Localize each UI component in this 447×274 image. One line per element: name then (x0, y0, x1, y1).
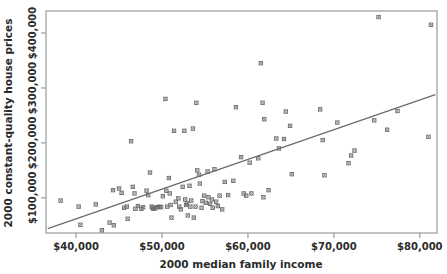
data-point-marker (427, 135, 430, 138)
data-point-marker (183, 129, 186, 132)
data-point-marker (321, 138, 324, 141)
data-point-marker (108, 221, 111, 224)
data-point-marker (198, 182, 201, 185)
data-point-marker (167, 176, 170, 179)
x-tick-label: $50,000 (139, 241, 185, 252)
x-axis-tick-labels: $40,000$50,000$60,000$70,000$80,000 (53, 241, 442, 252)
data-point-marker (94, 203, 97, 206)
data-point-marker (282, 137, 285, 140)
data-point-marker (323, 174, 326, 177)
data-point-marker (220, 208, 223, 211)
data-point-marker (290, 173, 293, 176)
data-point-marker (226, 193, 229, 196)
data-point-marker (429, 23, 432, 26)
data-point-marker (120, 191, 123, 194)
data-point-marker (79, 223, 82, 226)
data-point-marker (234, 105, 237, 108)
data-point-marker (186, 214, 189, 217)
data-point-marker (353, 149, 356, 152)
data-point-marker (117, 187, 120, 190)
data-point-marker (207, 196, 210, 199)
x-axis-ticks (76, 233, 420, 238)
data-point-marker (223, 180, 226, 183)
data-point-marker (211, 206, 214, 209)
data-point-marker (377, 15, 380, 18)
data-point-marker (172, 129, 175, 132)
data-point-marker (59, 199, 62, 202)
y-tick-label: $100,000 (27, 172, 38, 225)
data-point-marker (259, 62, 262, 65)
data-point-marker (126, 217, 129, 220)
data-point-marker (267, 188, 270, 191)
data-point-marker (200, 206, 203, 209)
data-point-marker (349, 154, 352, 157)
data-point-marker (111, 188, 114, 191)
data-point-marker (165, 205, 168, 208)
data-point-marker (202, 194, 205, 197)
data-point-marker (245, 194, 248, 197)
x-tick-label: $70,000 (311, 241, 357, 252)
data-point-marker (347, 162, 350, 165)
chart-canvas: $40,000$50,000$60,000$70,000$80,000 $100… (0, 0, 447, 274)
data-point-marker (191, 127, 194, 130)
data-point-marker (168, 192, 171, 195)
data-point-marker (275, 137, 278, 140)
data-point-marker (210, 198, 213, 201)
plot-frame (46, 11, 437, 233)
data-point-marker (184, 198, 187, 201)
data-point-marker (208, 202, 211, 205)
data-point-marker (190, 199, 193, 202)
data-point-marker (261, 101, 264, 104)
y-axis-tick-labels: $100,000$200,000$300,000$400,000 (27, 7, 38, 224)
data-point-marker (112, 224, 115, 227)
data-point-marker (214, 200, 217, 203)
data-point-marker (284, 110, 287, 113)
data-point-marker (133, 192, 136, 195)
data-point-marker (263, 118, 266, 121)
y-tick-label: $400,000 (27, 7, 38, 60)
data-point-marker (288, 124, 291, 127)
data-point-marker (385, 128, 388, 131)
y-axis-ticks (41, 33, 46, 198)
data-point-marker (336, 121, 339, 124)
data-point-marker (131, 185, 134, 188)
data-point-marker (100, 229, 103, 232)
y-tick-label: $300,000 (27, 62, 38, 115)
data-point-marker (201, 199, 204, 202)
data-point-marker (262, 196, 265, 199)
data-points (59, 15, 433, 232)
data-point-marker (189, 205, 192, 208)
data-point-marker (169, 203, 172, 206)
data-point-marker (195, 101, 198, 104)
x-axis-title: 2000 median family income (159, 258, 322, 270)
data-point-marker (248, 161, 251, 164)
data-point-marker (145, 189, 148, 192)
y-axis-title: 2000 constant-quality house prices (2, 19, 14, 228)
data-point-marker (218, 194, 221, 197)
data-point-marker (257, 157, 260, 160)
data-point-marker (239, 155, 242, 158)
y-tick-label: $200,000 (27, 117, 38, 170)
data-point-marker (136, 204, 139, 207)
data-point-marker (177, 197, 180, 200)
data-point-marker (192, 216, 195, 219)
x-tick-label: $80,000 (397, 241, 443, 252)
data-point-marker (396, 109, 399, 112)
data-point-marker (196, 169, 199, 172)
data-point-marker (373, 119, 376, 122)
data-point-marker (204, 201, 207, 204)
data-point-marker (194, 205, 197, 208)
x-tick-label: $40,000 (53, 241, 99, 252)
data-point-marker (318, 108, 321, 111)
data-point-marker (232, 179, 235, 182)
data-point-marker (250, 192, 253, 195)
data-point-marker (161, 194, 164, 197)
data-point-marker (148, 171, 151, 174)
x-tick-label: $60,000 (225, 241, 271, 252)
data-point-marker (188, 184, 191, 187)
scatter-plot-figure: $40,000$50,000$60,000$70,000$80,000 $100… (0, 0, 447, 274)
data-point-marker (216, 204, 219, 207)
regression-trendline (48, 95, 436, 229)
data-point-marker (164, 97, 167, 100)
data-point-marker (129, 140, 132, 143)
